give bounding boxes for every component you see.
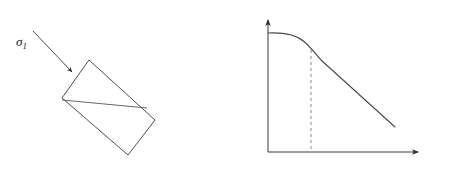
sigma1-arrow xyxy=(33,31,72,72)
left-diagram-svg xyxy=(0,0,230,186)
figure-root: σ1 e log P PP 불교란시료 xyxy=(0,0,461,186)
compression-curve xyxy=(268,33,395,127)
left-diagram-panel: σ1 xyxy=(0,0,230,186)
sigma1-label: σ1 xyxy=(16,35,27,51)
right-chart-panel: e log P PP 불교란시료 xyxy=(230,0,461,186)
compression-curve-svg xyxy=(230,0,461,186)
sigma1-subscript: 1 xyxy=(22,41,27,51)
